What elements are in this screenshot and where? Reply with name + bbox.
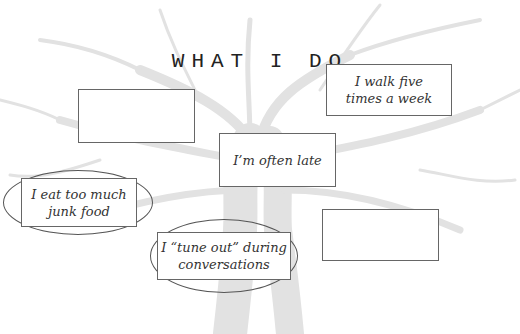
statement-box-tune-out: I “tune out” during conversations <box>157 232 291 280</box>
diagram-canvas: WHAT I DO I walk five times a week I’m o… <box>0 0 520 334</box>
statement-line: times a week <box>346 90 432 107</box>
statement-box-walk: I walk five times a week <box>326 64 452 116</box>
statement-line: conversations <box>161 256 287 273</box>
statement-box-late: I’m often late <box>219 133 336 187</box>
statement-line: I eat too much <box>31 186 126 203</box>
statement-line: I walk five <box>346 73 432 90</box>
blank-box-bottom-right <box>322 209 439 261</box>
statement-box-junk-food: I eat too much junk food <box>21 178 137 227</box>
statement-line: I “tune out” during <box>161 239 287 256</box>
statement-line: junk food <box>31 203 126 220</box>
blank-box-top-left <box>78 89 195 143</box>
statement-line: I’m often late <box>233 152 322 169</box>
